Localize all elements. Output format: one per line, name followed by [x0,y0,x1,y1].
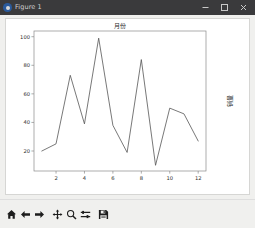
pan-button[interactable] [51,208,64,221]
x-tick-label: 12 [195,175,202,181]
x-tick-label: 8 [140,175,143,181]
x-tick-label: 10 [166,175,173,181]
figure-window: Figure 1 月份2040608010024681012销量 [0,0,255,228]
maximize-button[interactable] [215,0,234,15]
window-title: Figure 1 [15,0,42,15]
zoom-button[interactable] [65,208,78,221]
figure-canvas[interactable]: 月份2040608010024681012销量 [5,18,250,195]
data-line [42,38,198,165]
move-cross-icon [52,209,63,220]
sliders-icon [80,209,91,220]
y-tick-label: 60 [23,91,30,97]
matplotlib-icon [3,3,12,12]
x-tick-label: 2 [54,175,57,181]
chart-title: 月份 [114,22,126,30]
save-button[interactable] [97,208,110,221]
magnifier-icon [66,209,77,220]
floppy-disk-icon [98,209,109,220]
home-icon [6,209,17,220]
navigation-toolbar [0,199,255,228]
y-tick-label: 100 [20,34,30,40]
arrow-right-icon [34,209,45,220]
y-tick-label: 80 [23,62,30,68]
back-button[interactable] [19,208,32,221]
home-button[interactable] [5,208,18,221]
y-tick-label: 40 [23,119,30,125]
x-tick-label: 6 [111,175,114,181]
x-tick-label: 4 [83,175,87,181]
minimize-button[interactable] [196,0,215,15]
close-button[interactable] [234,0,253,15]
line-chart: 月份2040608010024681012销量 [6,19,249,194]
arrow-left-icon [20,209,31,220]
y-tick-label: 20 [23,148,30,154]
y-axis-label: 销量 [226,95,234,107]
title-bar: Figure 1 [0,0,255,15]
forward-button[interactable] [33,208,46,221]
axes-frame [34,31,206,171]
subplots-button[interactable] [79,208,92,221]
